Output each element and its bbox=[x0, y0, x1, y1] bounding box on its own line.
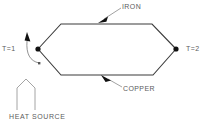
t1-leader-foot-marker bbox=[38, 62, 40, 64]
junction-left-label: T=1 bbox=[2, 45, 15, 53]
diagram-canvas bbox=[0, 0, 210, 127]
iron-conductor-path bbox=[38, 24, 176, 49]
heat-source-chevron-icon bbox=[17, 79, 35, 110]
t1-leader-curve bbox=[27, 41, 39, 63]
iron-leader-line bbox=[104, 8, 121, 19]
heat-source-label: HEAT SOURCE bbox=[9, 113, 66, 121]
t1-leader-arrow-icon bbox=[25, 32, 31, 42]
iron-label: IRON bbox=[122, 3, 141, 11]
copper-conductor-path bbox=[38, 49, 176, 75]
thermocouple-diagram: T=1 T=2 IRON COPPER HEAT SOURCE bbox=[0, 0, 210, 127]
copper-leader-arrow-icon bbox=[101, 75, 111, 82]
junction-left-dot-icon bbox=[35, 46, 40, 51]
junction-right-label: T=2 bbox=[186, 45, 199, 53]
copper-label: COPPER bbox=[123, 85, 155, 93]
junction-right-dot-icon bbox=[173, 46, 178, 51]
